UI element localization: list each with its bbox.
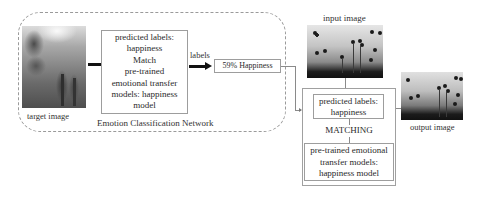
classification-box: predicted labels: happiness Match pre-tr… <box>101 30 188 114</box>
classification-line: Match <box>102 55 187 66</box>
result-connector-vertical <box>295 66 296 111</box>
result-box: 59% Happiness <box>214 59 281 73</box>
model-line: happiness model <box>305 168 393 180</box>
classification-line: happiness <box>102 43 187 54</box>
network-label: Emotion Classification Network <box>97 118 213 128</box>
target-to-classifier-connector <box>88 63 101 66</box>
labels-arrow-label: labels <box>190 50 210 60</box>
model-box: pre-trained emotional transfer models: h… <box>304 143 394 181</box>
classification-line: models: happiness <box>102 89 187 100</box>
result-connector-horizontal <box>281 66 296 67</box>
classification-line: model <box>102 100 187 111</box>
output-image <box>401 72 463 120</box>
matching-label: MATCHING <box>302 125 396 135</box>
model-line: transfer models: <box>305 157 393 169</box>
model-line: pre-trained emotional <box>305 145 393 157</box>
output-image-caption: output image <box>410 122 455 132</box>
input-image <box>307 25 383 78</box>
input-to-panel-connector <box>345 78 346 88</box>
classification-line: predicted labels: <box>102 32 187 43</box>
target-image <box>22 26 86 108</box>
classification-line: emotional transfer <box>102 78 187 89</box>
input-image-caption: input image <box>323 13 366 23</box>
target-image-caption: target image <box>27 111 69 121</box>
predicted-line: predicted labels: <box>314 96 383 107</box>
labels-arrow-shaft <box>189 65 206 68</box>
predicted-line: happiness <box>314 107 383 118</box>
predicted-labels-box: predicted labels: happiness <box>313 94 384 119</box>
labels-arrowhead-icon <box>205 62 212 70</box>
classification-line: pre-trained <box>102 66 187 77</box>
